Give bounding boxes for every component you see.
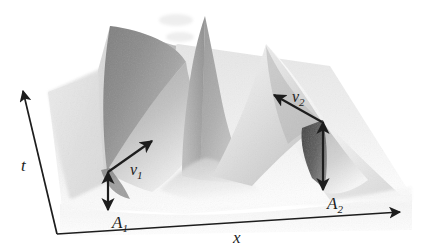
x-axis-label: x [232, 228, 241, 247]
figure-canvas: x t v1 v2 A1 A2 [0, 0, 421, 249]
soliton-collision-figure: x t v1 v2 A1 A2 [0, 0, 421, 249]
